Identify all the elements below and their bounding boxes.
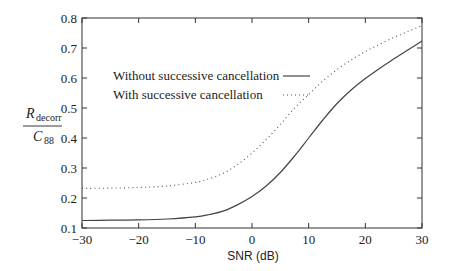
ylabel-numerator-sub: decorr [36, 112, 62, 123]
legend: Without successive cancellation With suc… [113, 68, 310, 102]
legend-label-without: Without successive cancellation [113, 68, 280, 83]
x-tick-label: 0 [249, 232, 256, 247]
series-layer [82, 26, 422, 221]
x-axis-label: SNR (dB) [227, 249, 278, 263]
x-tick-label: −20 [128, 232, 148, 247]
y-tick-label: 0.5 [61, 101, 77, 116]
x-axis-ticks: −30−20−100102030 [72, 18, 429, 247]
x-tick-label: −30 [72, 232, 92, 247]
y-tick-label: 0.8 [61, 11, 77, 26]
y-tick-label: 0.2 [61, 191, 77, 206]
ylabel-denominator-sub: 88 [44, 135, 54, 146]
ylabel-denominator: C [33, 129, 43, 144]
x-tick-label: 10 [302, 232, 315, 247]
line-chart: 0.10.20.30.40.50.60.70.8 −30−20−10010203… [0, 0, 451, 271]
y-tick-label: 0.6 [61, 71, 78, 86]
y-axis-label: R decorr C 88 [23, 106, 62, 146]
x-tick-label: 20 [359, 232, 372, 247]
legend-label-with: With successive cancellation [113, 87, 263, 102]
series-with-cancellation [82, 26, 422, 189]
y-tick-label: 0.4 [61, 131, 78, 146]
ylabel-numerator: R [25, 106, 35, 121]
y-tick-label: 0.7 [61, 41, 78, 56]
y-tick-label: 0.3 [61, 161, 77, 176]
x-tick-label: 30 [416, 232, 429, 247]
y-axis-ticks: 0.10.20.30.40.50.60.70.8 [61, 11, 422, 236]
x-tick-label: −10 [185, 232, 205, 247]
